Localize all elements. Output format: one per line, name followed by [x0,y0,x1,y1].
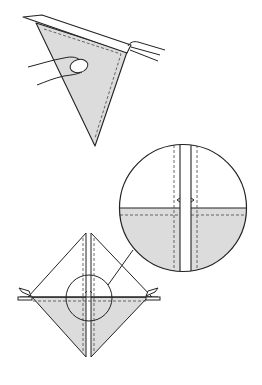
diamond-left-upper [28,233,86,297]
step-top-figure [23,15,165,146]
diamond-right-lower [91,297,148,357]
corner-tab-left [18,288,32,300]
diamond-left-lower [32,297,86,357]
origami-diagram [0,0,262,385]
magnified-center-gap [180,140,191,280]
pinching-fingers [128,42,165,61]
corner-tab-right [146,288,160,300]
magnified-circle [115,140,255,288]
